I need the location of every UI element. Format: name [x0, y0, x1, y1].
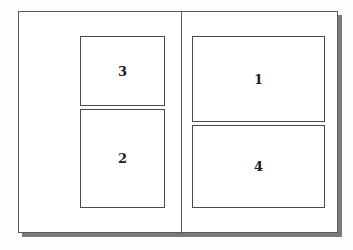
region-box-3[interactable]: 3	[80, 36, 165, 106]
region-label-4: 4	[254, 160, 263, 173]
region-label-1: 1	[254, 73, 263, 86]
region-box-1[interactable]: 1	[192, 36, 325, 122]
region-box-2[interactable]: 2	[80, 109, 165, 208]
region-box-4[interactable]: 4	[192, 125, 325, 208]
region-label-3: 3	[118, 65, 127, 78]
region-label-2: 2	[118, 152, 127, 165]
diagram-canvas: 3 2 1 4	[0, 0, 353, 250]
page-outline: 3 2 1 4	[18, 11, 338, 233]
column-divider	[181, 12, 182, 234]
